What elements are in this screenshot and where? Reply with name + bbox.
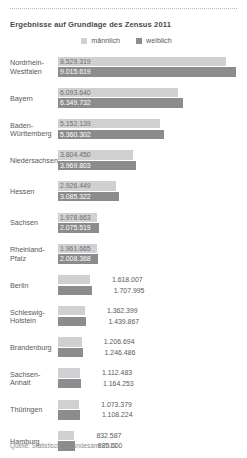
bar-value-weiblich: 6.349.732: [60, 98, 91, 107]
bar-value-weiblich: 3.969.803: [60, 161, 91, 170]
bar-value-weiblich: 5.360.302: [60, 130, 91, 139]
bar-value-weiblich: 2.008.368: [60, 254, 91, 263]
bar-weiblich: [58, 317, 86, 326]
legend-item-weiblich: weiblich: [136, 36, 172, 45]
bar-value-maennlich: 2.926.449: [60, 181, 91, 190]
bar-weiblich: [58, 379, 81, 388]
chart-row: Nordrhein-Westfalen8.529.3199.015.619: [0, 52, 247, 83]
bar-value-maennlich: 1.112.483: [102, 368, 132, 377]
bar-value-maennlich: 1.978.663: [60, 213, 91, 222]
bar-value-weiblich: 1.108.224: [102, 410, 133, 419]
bar-maennlich: [58, 431, 74, 440]
legend-swatch-maennlich: [81, 38, 87, 44]
bar-value-maennlich: 1.206.694: [104, 337, 135, 346]
row-bars: 1.978.6632.075.519: [58, 213, 247, 235]
legend-swatch-weiblich: [136, 38, 142, 44]
row-bars: 1.112.4831.164.253: [58, 368, 247, 390]
row-label: Niedersachsen: [0, 157, 58, 165]
row-bars: 8.529.3199.015.619: [58, 57, 247, 79]
row-label: Rheinland-Pfalz: [0, 246, 58, 263]
row-bars: 6.093.6406.349.732: [58, 88, 247, 110]
chart-row: Brandenburg1.206.6941.246.486: [0, 333, 247, 364]
row-bars: 1.362.3991.439.867: [58, 306, 247, 328]
bar-maennlich: [58, 337, 82, 346]
row-label: Berlin: [0, 282, 58, 290]
bar-value-weiblich: 3.085.322: [60, 192, 91, 201]
chart-row: Berlin1.618.0071.707.995: [0, 270, 247, 301]
chart-row: Schleswig-Holstein1.362.3991.439.867: [0, 302, 247, 333]
top-divider: [10, 8, 237, 9]
row-label: Brandenburg: [0, 344, 58, 352]
chart-row: Bayern6.093.6406.349.732: [0, 83, 247, 114]
chart-row: Thüringen1.073.3791.108.224: [0, 395, 247, 426]
source-note: Quelle: Statistisches Bundesamt 2013: [10, 442, 116, 449]
row-label: Bayern: [0, 95, 58, 103]
row-label: Sachsen-Anhalt: [0, 371, 58, 388]
row-label: Sachsen: [0, 219, 58, 227]
row-bars: 1.073.3791.108.224: [58, 400, 247, 422]
chart-row: Hessen2.926.4493.085.322: [0, 177, 247, 208]
bar-value-weiblich: 1.164.253: [103, 379, 134, 388]
bar-value-maennlich: 8.529.319: [60, 57, 91, 66]
bar-value-maennlich: 1.961.665: [60, 244, 91, 253]
row-bars: 3.804.4503.969.803: [58, 150, 247, 172]
bar-value-weiblich: 1.439.867: [108, 317, 139, 326]
bar-value-weiblich: 2.075.519: [60, 223, 91, 232]
legend: männlich weiblich: [6, 36, 247, 45]
bar-chart: Nordrhein-Westfalen8.529.3199.015.619Bay…: [0, 52, 247, 458]
bar-value-maennlich: 1.073.379: [101, 400, 132, 409]
bar-value-weiblich: 1.246.486: [105, 348, 136, 357]
page-title: Ergebnisse auf Grundlage des Zensus 2011: [10, 20, 247, 29]
bar-value-maennlich: 1.362.399: [107, 306, 138, 315]
bar-value-maennlich: 832.587: [96, 431, 121, 440]
legend-item-maennlich: männlich: [81, 36, 120, 45]
bar-maennlich: [58, 306, 85, 315]
bar-value-weiblich: 9.015.619: [60, 67, 91, 76]
row-bars: 1.961.6652.008.368: [58, 244, 247, 266]
row-bars: 1.618.0071.707.995: [58, 275, 247, 297]
row-label: Thüringen: [0, 406, 58, 414]
bar-value-maennlich: 6.093.640: [60, 88, 91, 97]
bar-value-maennlich: 3.804.450: [60, 150, 91, 159]
bar-maennlich: [58, 368, 80, 377]
bar-value-maennlich: 1.618.007: [112, 275, 143, 284]
legend-label-weiblich: weiblich: [146, 36, 172, 45]
bar-maennlich: [58, 400, 79, 409]
chart-row: Sachsen-Anhalt1.112.4831.164.253: [0, 364, 247, 395]
row-label: Hessen: [0, 188, 58, 196]
legend-label-maennlich: männlich: [91, 36, 120, 45]
row-bars: 5.152.1395.360.302: [58, 119, 247, 141]
bar-weiblich: [58, 348, 83, 357]
row-label: Schleswig-Holstein: [0, 309, 58, 326]
bar-weiblich: [58, 410, 80, 419]
bar-weiblich: [58, 286, 92, 295]
chart-row: Baden-Württemberg5.152.1395.360.302: [0, 114, 247, 145]
chart-row: Niedersachsen3.804.4503.969.803: [0, 146, 247, 177]
bar-value-maennlich: 5.152.139: [60, 119, 91, 128]
bar-value-weiblich: 1.707.995: [114, 286, 145, 295]
bar-maennlich: [58, 275, 90, 284]
row-bars: 2.926.4493.085.322: [58, 181, 247, 203]
chart-row: Sachsen1.978.6632.075.519: [0, 208, 247, 239]
row-bars: 1.206.6941.246.486: [58, 337, 247, 359]
row-label: Nordrhein-Westfalen: [0, 59, 58, 76]
row-label: Baden-Württemberg: [0, 122, 58, 139]
chart-row: Rheinland-Pfalz1.961.6652.008.368: [0, 239, 247, 270]
